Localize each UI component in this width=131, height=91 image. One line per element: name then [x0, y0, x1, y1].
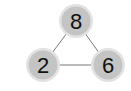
number-triangle-diagram: 8 2 6 [0, 0, 131, 91]
node-bottom-left: 2 [26, 48, 60, 82]
node-top-label: 8 [70, 9, 82, 34]
node-bottom-right-label: 6 [102, 53, 114, 78]
node-bottom-left-label: 2 [37, 53, 49, 78]
node-bottom-right: 6 [91, 48, 125, 82]
node-top: 8 [59, 4, 93, 38]
